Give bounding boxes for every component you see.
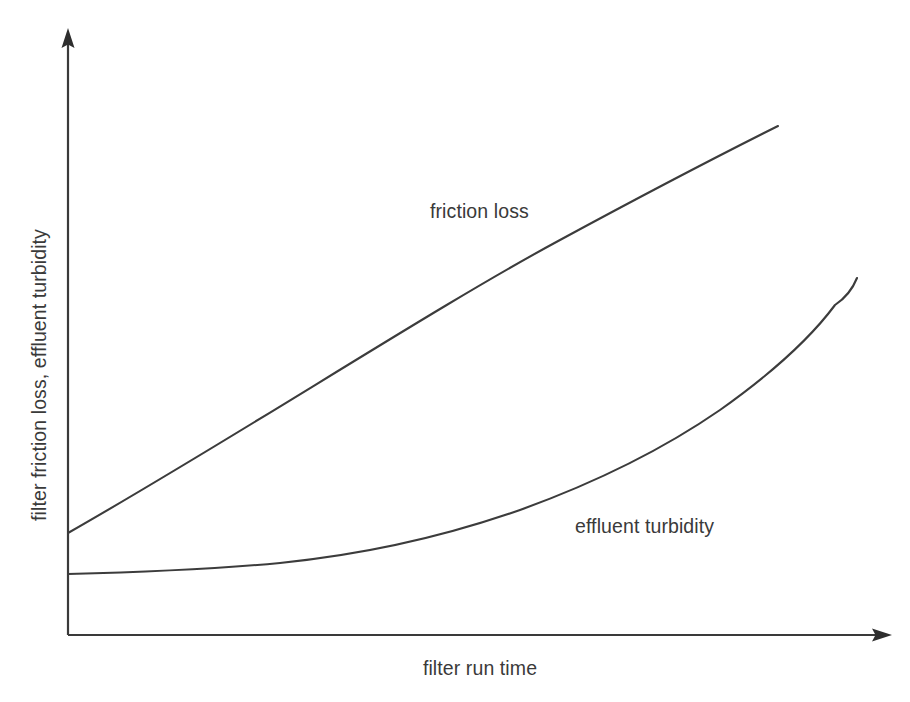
y-axis-label: filter friction loss, effluent turbidity [28, 229, 50, 521]
annotation-effluent-turbidity: effluent turbidity [575, 515, 714, 537]
x-axis-label: filter run time [423, 657, 537, 679]
annotation-friction-loss: friction loss [430, 200, 529, 222]
chart-container: friction loss effluent turbidity filter … [0, 0, 910, 702]
chart-background [0, 0, 910, 702]
chart-canvas: friction loss effluent turbidity filter … [0, 0, 910, 702]
